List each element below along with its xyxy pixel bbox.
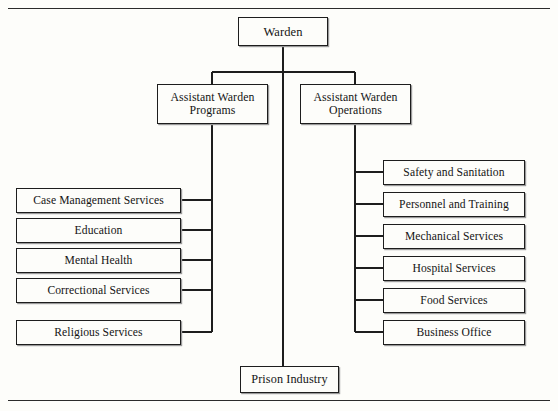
node-assistant-warden-programs[interactable]: Assistant Warden Programs <box>157 84 268 124</box>
node-hospital-services-label: Hospital Services <box>412 262 495 275</box>
node-personnel-and-training-label: Personnel and Training <box>399 198 509 211</box>
node-religious-services-label: Religious Services <box>54 326 142 339</box>
node-case-management-services[interactable]: Case Management Services <box>16 188 181 213</box>
node-assistant-warden-programs-line2: Programs <box>171 104 255 117</box>
node-mechanical-services-label: Mechanical Services <box>405 230 503 243</box>
node-education[interactable]: Education <box>16 218 181 243</box>
node-mental-health-label: Mental Health <box>65 254 133 267</box>
node-mental-health[interactable]: Mental Health <box>16 248 181 273</box>
node-safety-and-sanitation-label: Safety and Sanitation <box>403 166 504 179</box>
node-prison-industry-label: Prison Industry <box>251 373 327 387</box>
node-business-office[interactable]: Business Office <box>383 320 525 345</box>
org-chart-page: Warden Assistant Warden Programs Assista… <box>0 0 558 411</box>
node-correctional-services-label: Correctional Services <box>47 284 149 297</box>
node-hospital-services[interactable]: Hospital Services <box>383 256 525 281</box>
node-business-office-label: Business Office <box>416 326 491 339</box>
node-mechanical-services[interactable]: Mechanical Services <box>383 224 525 249</box>
node-warden-label: Warden <box>263 25 302 39</box>
node-food-services[interactable]: Food Services <box>383 288 525 313</box>
node-personnel-and-training[interactable]: Personnel and Training <box>383 192 525 217</box>
node-education-label: Education <box>75 224 123 237</box>
node-assistant-warden-operations-line2: Operations <box>314 104 398 117</box>
node-warden[interactable]: Warden <box>238 17 328 46</box>
node-religious-services[interactable]: Religious Services <box>16 320 181 345</box>
node-case-management-services-label: Case Management Services <box>33 194 164 207</box>
node-prison-industry[interactable]: Prison Industry <box>240 366 339 393</box>
node-correctional-services[interactable]: Correctional Services <box>16 278 181 303</box>
node-safety-and-sanitation[interactable]: Safety and Sanitation <box>383 160 525 185</box>
node-assistant-warden-operations[interactable]: Assistant Warden Operations <box>300 84 411 124</box>
node-food-services-label: Food Services <box>420 294 487 307</box>
